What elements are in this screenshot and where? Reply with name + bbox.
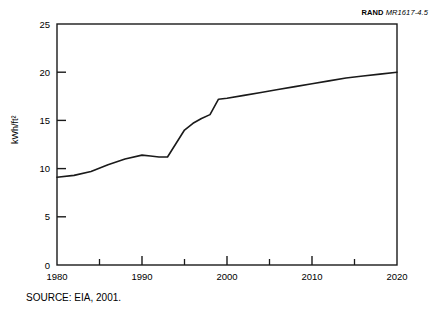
x-axis-ticks: 19801990200020102020 (46, 256, 407, 282)
x-tick-label: 1980 (46, 271, 67, 282)
y-tick-label: 10 (39, 163, 50, 174)
y-axis-ticks: 0510152025 (39, 19, 66, 271)
source-note: SOURCE: EIA, 2001. (26, 292, 121, 303)
x-tick-label: 2020 (386, 271, 407, 282)
line-chart-plot: 0510152025 19801990200020102020 (0, 0, 436, 320)
plot-frame (57, 24, 397, 265)
x-tick-label: 1990 (131, 271, 152, 282)
data-series-line (57, 72, 397, 177)
y-tick-label: 15 (39, 115, 50, 126)
chart-figure: RAND MR1617-4.5 kWh/ft² 0510152025 19801… (0, 0, 436, 320)
y-tick-label: 0 (45, 260, 50, 271)
y-tick-label: 25 (39, 19, 50, 30)
y-tick-label: 20 (39, 67, 50, 78)
x-tick-label: 2010 (301, 271, 322, 282)
y-tick-label: 5 (45, 211, 50, 222)
x-tick-label: 2000 (216, 271, 237, 282)
